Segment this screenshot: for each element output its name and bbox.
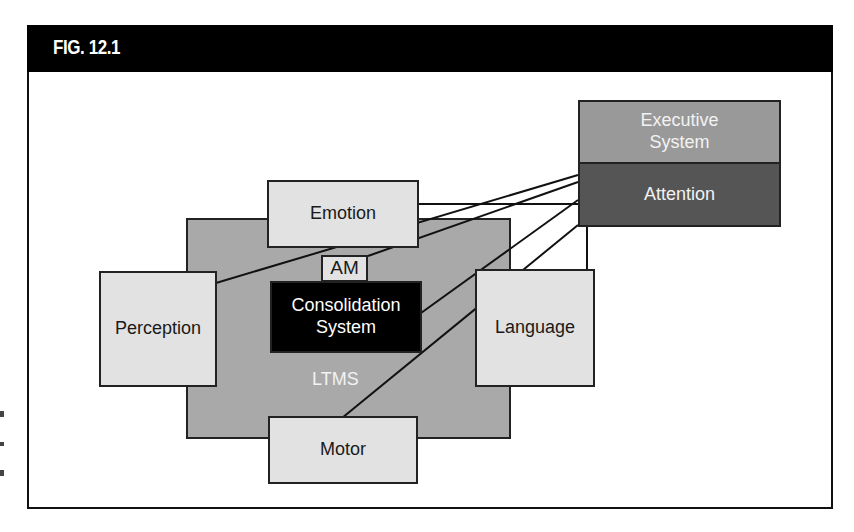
motor-box: Motor <box>268 416 418 484</box>
margin-mark <box>0 411 4 417</box>
executive-system-box: Executive System <box>578 100 781 164</box>
executive-label-line1: Executive <box>640 110 718 132</box>
language-box: Language <box>475 269 595 387</box>
margin-mark <box>0 470 4 476</box>
consolidation-label-line2: System <box>316 317 376 339</box>
attention-label: Attention <box>644 184 715 206</box>
figure-title-bar: FIG. 12.1 <box>27 25 833 72</box>
ltms-label: LTMS <box>312 369 359 390</box>
attention-box: Attention <box>578 162 781 227</box>
am-box: AM <box>321 255 368 282</box>
perception-label: Perception <box>115 318 201 340</box>
executive-label-line2: System <box>649 132 709 154</box>
motor-label: Motor <box>320 439 366 461</box>
figure-title: FIG. 12.1 <box>53 36 120 59</box>
emotion-label: Emotion <box>310 203 376 225</box>
consolidation-system-box: Consolidation System <box>270 281 422 353</box>
consolidation-label-line1: Consolidation <box>291 295 400 317</box>
perception-box: Perception <box>99 271 217 387</box>
emotion-box: Emotion <box>267 180 419 248</box>
margin-mark <box>0 442 4 446</box>
language-label: Language <box>495 317 575 339</box>
am-label: AM <box>330 257 359 280</box>
